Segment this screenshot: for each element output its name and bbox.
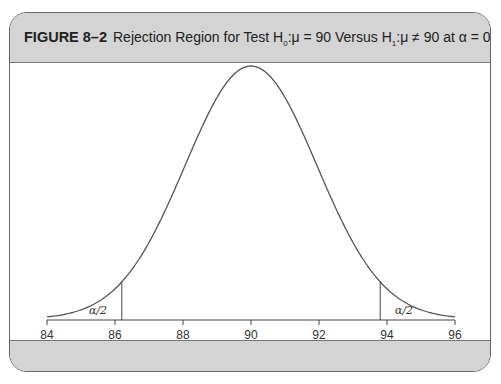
normal-curve-chart: 84868890929496 α/2α/2 — [0, 0, 501, 384]
x-tick-label: 90 — [244, 328, 258, 342]
x-axis-ticks: 84868890929496 — [40, 320, 462, 342]
x-tick-label: 88 — [176, 328, 190, 342]
x-tick-label: 96 — [448, 328, 462, 342]
x-tick-label: 86 — [108, 328, 122, 342]
x-tick-label: 84 — [40, 328, 54, 342]
critical-value-lines — [122, 282, 380, 320]
tail-annotations: α/2α/2 — [89, 304, 413, 317]
x-tick-label: 94 — [380, 328, 394, 342]
x-tick-label: 92 — [312, 328, 326, 342]
alpha-half-label: α/2 — [395, 304, 413, 317]
normal-curve — [47, 66, 455, 317]
alpha-half-label: α/2 — [89, 304, 107, 317]
